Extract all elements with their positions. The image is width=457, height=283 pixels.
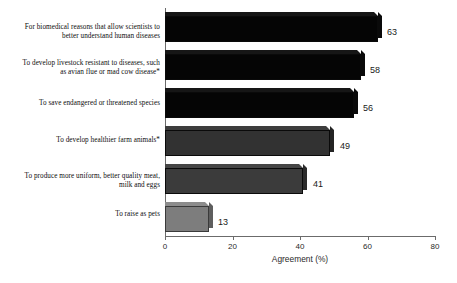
category-label-column: For biomedical reasons that allow scient… bbox=[0, 0, 160, 235]
bar-front-1 bbox=[165, 54, 361, 80]
category-label-4-line1: To produce more uniform, better quality … bbox=[5, 172, 160, 181]
x-tick-label-20: 20 bbox=[228, 242, 237, 251]
category-label-1: To develop livestock resistant to diseas… bbox=[5, 59, 160, 78]
category-label-0-line2: better understand human diseases bbox=[5, 32, 160, 41]
category-label-4: To produce more uniform, better quality … bbox=[5, 172, 160, 191]
category-label-3-line1: To develop healthier farm animals* bbox=[5, 136, 160, 145]
category-label-3: To develop healthier farm animals* bbox=[5, 136, 160, 145]
bar-side-5 bbox=[209, 202, 213, 228]
bar-value-1: 58 bbox=[370, 65, 380, 75]
bar-side-2 bbox=[354, 88, 358, 114]
category-label-2-line1: To save endangered or threatened species bbox=[5, 99, 160, 108]
category-label-1-line1: To develop livestock resistant to diseas… bbox=[5, 59, 160, 68]
x-tick-label-40: 40 bbox=[296, 242, 305, 251]
bar-front-2 bbox=[165, 92, 354, 118]
bar-side-1 bbox=[361, 50, 365, 76]
bar-value-2: 56 bbox=[363, 103, 373, 113]
category-label-0: For biomedical reasons that allow scient… bbox=[5, 23, 160, 42]
category-label-5-line1: To raise as pets bbox=[5, 210, 160, 219]
category-label-1-line2: as avian flue or mad cow disease* bbox=[5, 68, 160, 77]
x-tick-80 bbox=[435, 236, 436, 240]
x-tick-40 bbox=[300, 236, 301, 240]
category-label-2: To save endangered or threatened species bbox=[5, 99, 160, 108]
x-axis-title: Agreement (%) bbox=[272, 254, 328, 264]
bar-value-3: 49 bbox=[340, 141, 350, 151]
bar-side-0 bbox=[378, 12, 382, 38]
bar-value-5: 13 bbox=[218, 217, 228, 227]
bar-front-0 bbox=[165, 16, 378, 42]
x-tick-label-80: 80 bbox=[431, 242, 440, 251]
category-label-5: To raise as pets bbox=[5, 210, 160, 219]
plot-area: 0 20 40 60 80 Agreement (%) 63 58 56 bbox=[165, 8, 435, 236]
bar-side-4 bbox=[303, 164, 307, 190]
bar-chart-figure: For biomedical reasons that allow scient… bbox=[0, 0, 457, 283]
bar-front-3 bbox=[165, 130, 330, 156]
x-tick-20 bbox=[233, 236, 234, 240]
x-tick-label-60: 60 bbox=[363, 242, 372, 251]
x-tick-label-0: 0 bbox=[163, 242, 167, 251]
bar-value-0: 63 bbox=[387, 27, 397, 37]
bar-value-4: 41 bbox=[313, 179, 323, 189]
category-label-4-line2: milk and eggs bbox=[5, 181, 160, 190]
category-label-0-line1: For biomedical reasons that allow scient… bbox=[5, 23, 160, 32]
x-tick-60 bbox=[368, 236, 369, 240]
bar-side-3 bbox=[330, 126, 334, 152]
x-tick-0 bbox=[165, 236, 166, 240]
bar-front-5 bbox=[165, 206, 209, 232]
bar-front-4 bbox=[165, 168, 303, 194]
